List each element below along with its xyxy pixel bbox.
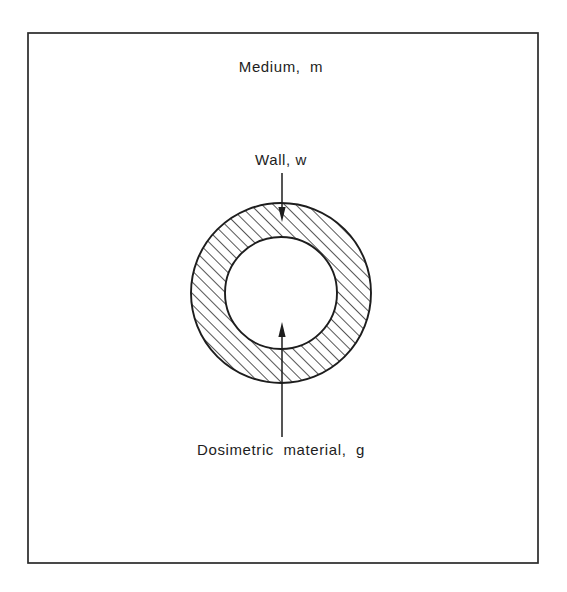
cavity-dosimetry-diagram: Medium, m Wall, w Dosimetric material, g [0, 0, 567, 592]
wall-label: Wall, w [255, 151, 307, 168]
figure-container: Medium, m Wall, w Dosimetric material, g [0, 0, 567, 592]
dosimetric-material-label: Dosimetric material, g [197, 441, 365, 458]
medium-label: Medium, m [239, 58, 323, 75]
